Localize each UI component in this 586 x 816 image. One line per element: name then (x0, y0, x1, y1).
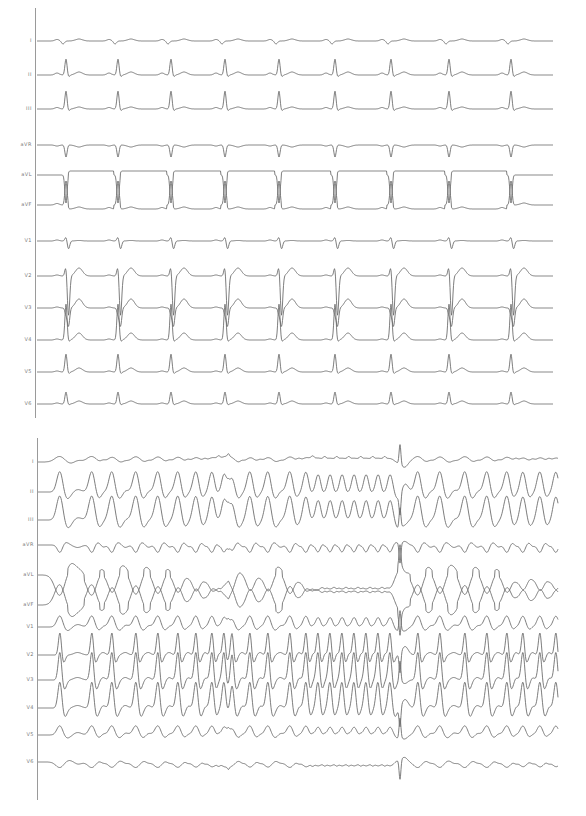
ecg-trace-ii (38, 472, 558, 515)
ecg-trace-iii (38, 496, 558, 527)
ecg-trace-v5 (38, 718, 558, 739)
ecg-trace-v6 (38, 757, 558, 779)
ecg-trace-v1 (37, 238, 553, 249)
ecg-traces-bottom (38, 445, 558, 780)
ecg-trace-avl (38, 545, 558, 599)
ecg-trace-iii (37, 91, 553, 110)
ecg-trace-v1 (38, 611, 558, 632)
ecg-trace-v2 (38, 633, 558, 673)
ecg-trace-v5 (37, 354, 553, 373)
ecg-trace-i (37, 39, 553, 44)
ecg-trace-v4 (38, 682, 558, 727)
ecg-trace-avr (38, 541, 558, 563)
ecg-trace-avf (37, 181, 553, 209)
ecg-trace-avr (37, 145, 553, 157)
ecg-traces-top (37, 39, 553, 405)
ecg-trace-avl (37, 171, 553, 203)
ecg-trace-v6 (37, 392, 553, 405)
ecg-trace-i (38, 445, 558, 468)
ecg-trace-v3 (38, 653, 558, 689)
ecg-trace-avf (38, 581, 558, 635)
ecg-trace-v4 (37, 304, 553, 341)
ecg-trace-v3 (37, 299, 553, 326)
ecg-traces (0, 0, 586, 816)
ecg-trace-ii (37, 59, 553, 76)
